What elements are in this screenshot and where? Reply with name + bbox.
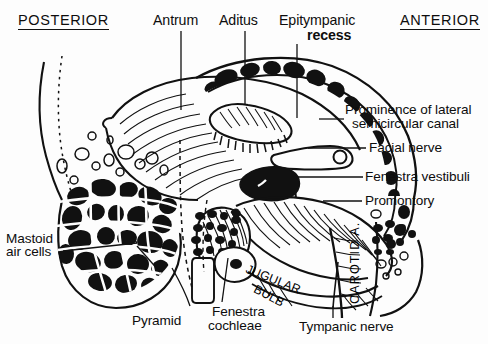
label-prominence-line1: Prominence of lateral (345, 103, 471, 117)
label-epitympanic-recess-line1: Epitympanic (279, 13, 355, 27)
orientation-posterior: POSTERIOR (18, 13, 109, 30)
label-prominence-line2: semicircular canal (352, 117, 459, 131)
tympanic-nerve-structure (333, 262, 338, 308)
fenestra-vestibuli (240, 167, 300, 201)
label-fenestra-vestibuli: Fenestra vestibuli (365, 170, 470, 184)
posterior-outer-contour (40, 62, 62, 200)
label-facial-nerve: Facial nerve (369, 141, 442, 155)
label-aditus: Aditus (219, 13, 258, 27)
antrum-left-edge (103, 118, 112, 128)
orientation-anterior: ANTERIOR (400, 13, 480, 30)
label-pyramid: Pyramid (132, 314, 181, 328)
facial-nerve-terminus (334, 151, 347, 164)
label-fenestra-cochleae-line1: Fenestra (212, 305, 265, 319)
label-carotid-artery: CAROTID A. (348, 222, 362, 304)
fenestra-cochleae-opening (230, 259, 242, 269)
open-air-cells-upper (57, 132, 168, 184)
mastoid-air-cells-group (56, 172, 184, 300)
label-promontory: Promontory (365, 194, 434, 208)
label-epitympanic-recess-line2: recess (307, 28, 351, 42)
label-fenestra-cochleae-line2: cochleae (208, 319, 262, 333)
label-tympanic-nerve: Tympanic nerve (299, 320, 394, 334)
label-antrum: Antrum (153, 13, 198, 27)
label-mastoid-line2: air cells (6, 245, 51, 259)
leader-pyramid (172, 268, 190, 306)
